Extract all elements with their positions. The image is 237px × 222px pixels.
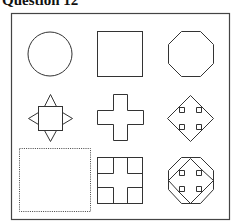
cell-square bbox=[98, 32, 143, 77]
cell-plus-cross bbox=[98, 95, 144, 141]
cell-missing-answer bbox=[20, 149, 91, 212]
cell-square-with-cross-cutout bbox=[98, 158, 143, 204]
cell-square-with-side-triangles bbox=[29, 95, 73, 142]
cell-circle bbox=[28, 32, 72, 76]
puzzle-matrix bbox=[0, 0, 237, 222]
cell-octagon-with-four-way-arrow bbox=[169, 158, 214, 204]
cell-four-way-arrow-path bbox=[168, 96, 214, 142]
cell-octagon bbox=[169, 32, 214, 77]
